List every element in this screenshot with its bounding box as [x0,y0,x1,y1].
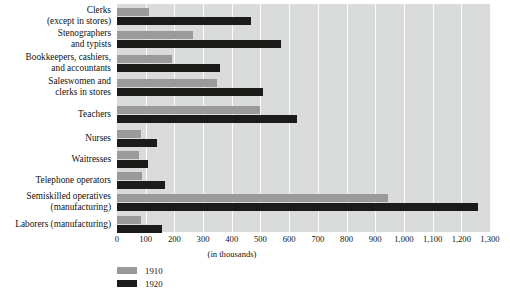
x-tick-label-400: 400 [225,234,238,245]
chart-legend: 19101920 [117,264,163,290]
legend-item-1920: 1920 [117,277,163,290]
bar-1910-row-4 [117,106,260,114]
bar-1920-row-5 [117,139,157,147]
category-label-4: Teachers [78,109,111,120]
x-axis: 01002003004005006007008009001,0001,1001,… [117,234,490,248]
x-tick-label-1000: 1,000 [394,234,413,245]
bar-1920-row-1 [117,40,281,48]
legend-swatch-1920 [117,280,137,287]
bar-1920-row-6 [117,160,148,168]
category-label-7: Telephone operators [35,175,111,186]
x-tick-label-1200: 1,200 [452,234,471,245]
bar-1920-row-2 [117,64,220,72]
bar-1920-row-9 [117,225,162,233]
x-axis-title: (in thousands) [0,249,510,259]
bar-1910-row-6 [117,151,139,159]
category-label-8: Semiskilled operatives (manufacturing) [27,191,111,212]
bar-1910-row-9 [117,216,141,224]
plot-area [117,4,490,232]
bar-1920-row-0 [117,17,251,25]
legend-swatch-1910 [117,267,137,274]
x-tick-label-800: 800 [340,234,353,245]
bar-1910-row-8 [117,194,388,202]
category-label-1: Stenographers and typists [58,28,111,49]
gridline [433,4,434,232]
legend-label-1910: 1910 [145,266,163,276]
bar-1910-row-7 [117,172,142,180]
x-tick-label-1300: 1,300 [480,234,499,245]
bar-1910-row-1 [117,31,193,39]
x-tick-label-0: 0 [115,234,119,245]
gridline [404,4,405,232]
gridline [461,4,462,232]
x-tick-label-300: 300 [197,234,210,245]
bar-1910-row-2 [117,55,172,63]
category-label-0: Clerks (except in stores) [47,5,111,26]
category-label-2: Bookkeepers, cashiers, and accountants [26,52,111,73]
category-label-3: Saleswomen and clerks in stores [48,76,111,97]
x-tick-label-500: 500 [254,234,267,245]
category-label-6: Waitresses [71,154,111,165]
x-tick-label-900: 900 [369,234,382,245]
legend-label-1920: 1920 [145,279,163,289]
bar-chart: Clerks (except in stores)Stenographers a… [0,0,510,304]
category-label-5: Nurses [85,133,111,144]
x-tick-label-1100: 1,100 [423,234,442,245]
x-axis-title-text: (in thousands) [208,249,257,259]
bar-1920-row-8 [117,203,478,211]
bar-1910-row-0 [117,8,149,16]
category-label-9: Laborers (manufacturing) [15,219,111,230]
bar-1910-row-3 [117,79,217,87]
gridline [490,4,491,232]
legend-item-1910: 1910 [117,264,163,277]
category-axis-labels: Clerks (except in stores)Stenographers a… [0,4,114,232]
bar-1920-row-7 [117,181,165,189]
x-tick-label-100: 100 [139,234,152,245]
x-tick-label-200: 200 [168,234,181,245]
bar-1920-row-3 [117,88,263,96]
x-tick-label-700: 700 [311,234,324,245]
bar-1910-row-5 [117,130,141,138]
x-tick-label-600: 600 [283,234,296,245]
bar-1920-row-4 [117,115,297,123]
